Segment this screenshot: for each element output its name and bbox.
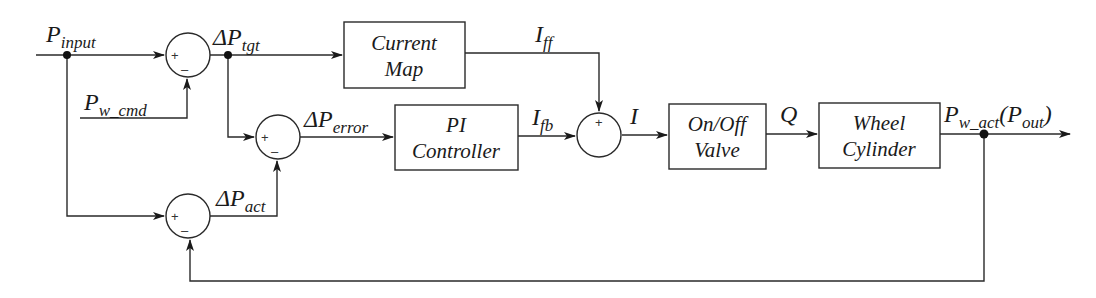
svg-text:+: + (261, 130, 269, 145)
svg-text:Map: Map (384, 57, 424, 81)
block-wheel-cylinder: Wheel Cylinder (819, 103, 940, 168)
label-i: I (629, 103, 639, 129)
svg-text:Current: Current (371, 31, 438, 55)
svg-text:–: – (181, 62, 189, 77)
wire-i-ff (465, 53, 599, 111)
svg-text:–: – (271, 144, 279, 159)
label-i-ff: Iff (534, 21, 555, 52)
summing-junction-tgt: + – (166, 33, 210, 77)
block-current-map: Current Map (344, 22, 465, 88)
summing-junction-error: + – (256, 115, 300, 159)
label-p-w-cmd: Pw_cmd (83, 89, 147, 120)
label-delta-p-error: ΔPerror (303, 106, 368, 137)
control-block-diagram: + – + – + – + Current Map PI Controller … (0, 0, 1096, 298)
label-p-input: Pinput (45, 21, 97, 52)
summing-junction-act: + – (166, 194, 210, 238)
label-i-fb: Ifb (531, 104, 553, 135)
block-pi-controller: PI Controller (395, 105, 518, 170)
wire-delta-p-tgt-branch (228, 55, 254, 137)
junction-dot-delta-p-tgt (224, 51, 232, 59)
label-delta-p-tgt: ΔPtgt (212, 24, 261, 55)
svg-text:Cylinder: Cylinder (842, 137, 916, 161)
label-p-w-act: Pw_act(Pout) (943, 101, 1052, 132)
block-on-off-valve: On/Off Valve (669, 104, 766, 169)
svg-text:Wheel: Wheel (853, 111, 906, 135)
svg-text:–: – (181, 223, 189, 238)
summing-junction-current: + (577, 113, 621, 157)
label-q: Q (780, 101, 797, 127)
svg-text:Valve: Valve (694, 138, 739, 162)
svg-text:+: + (171, 48, 179, 63)
svg-text:On/Off: On/Off (688, 112, 750, 136)
wire-p-input-branch (67, 55, 164, 216)
svg-text:Controller: Controller (412, 139, 501, 163)
label-delta-p-act: ΔPact (215, 185, 267, 216)
svg-text:+: + (595, 115, 603, 130)
svg-text:PI: PI (445, 113, 467, 137)
junction-dot-p-input (63, 51, 71, 59)
svg-text:+: + (171, 209, 179, 224)
